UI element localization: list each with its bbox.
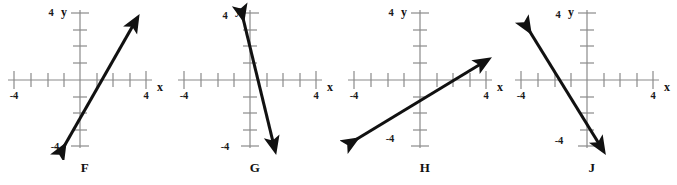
coordinate-plane-j: y 4 -4 x -4 4 — [507, 0, 677, 160]
y-axis-label-j: y — [568, 5, 574, 19]
coordinate-plane-f: y 4 -4 x -4 4 — [0, 0, 170, 160]
y-bottom-tick-label-g: -4 — [221, 141, 230, 152]
x-right-tick-label-h: 4 — [483, 90, 489, 101]
x-left-tick-label-g: -4 — [180, 90, 189, 101]
y-axis-label-g: y — [235, 3, 241, 17]
panel-label-j: J — [507, 160, 677, 176]
line-f — [62, 22, 135, 150]
y-bottom-tick-label-j: -4 — [555, 135, 564, 146]
figure-sheet: y 4 -4 x -4 4 F — [0, 0, 677, 185]
y-top-tick-label-g: 4 — [222, 10, 228, 21]
y-axis-label-h: y — [401, 5, 407, 19]
x-axis-label-f: x — [157, 80, 163, 94]
x-axis-label-g: x — [327, 80, 333, 94]
y-top-tick-label-f: 4 — [48, 7, 54, 18]
graph-panel-g: y 4 -4 x -4 4 G — [170, 0, 340, 185]
graph-panel-j: y 4 -4 x -4 4 J — [507, 0, 677, 185]
x-right-tick-label-j: 4 — [650, 90, 656, 101]
x-left-tick-label-h: -4 — [350, 90, 359, 101]
y-bottom-tick-label-h: -4 — [386, 133, 395, 144]
panel-label-f: F — [0, 160, 170, 176]
x-left-tick-label-j: -4 — [517, 90, 526, 101]
x-right-tick-label-g: 4 — [313, 90, 319, 101]
y-bottom-tick-label-f: -4 — [51, 141, 60, 152]
x-axis-label-h: x — [497, 80, 503, 94]
panel-label-h: H — [340, 160, 510, 176]
coordinate-plane-g: y 4 -4 x -4 4 — [170, 0, 340, 160]
y-top-tick-label-h: 4 — [388, 7, 394, 18]
y-axis-label-f: y — [61, 5, 67, 19]
graph-panel-h: y 4 -4 x -4 4 H — [340, 0, 510, 185]
graph-panel-f: y 4 -4 x -4 4 F — [0, 0, 170, 185]
panel-label-g: G — [170, 160, 340, 176]
x-left-tick-label-f: -4 — [10, 90, 19, 101]
x-axis-label-j: x — [664, 80, 670, 94]
coordinate-plane-h: y 4 -4 x -4 4 — [340, 0, 510, 160]
y-top-tick-label-j: 4 — [555, 9, 561, 20]
x-right-tick-label-f: 4 — [143, 90, 149, 101]
